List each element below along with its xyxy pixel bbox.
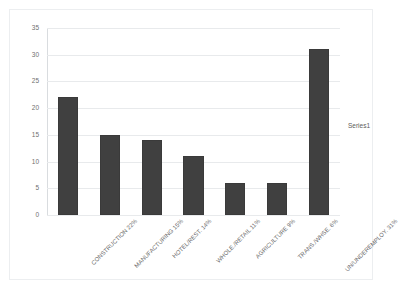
x-axis-tick-labels: CONSTRUCTION 22%MANUFACTURING 15%HOTEL/R… <box>47 218 340 288</box>
bar[interactable] <box>100 135 120 215</box>
legend-entry-series1: Series1 <box>348 122 370 129</box>
x-axis-tick-label: AGRICULTURE 9% <box>255 218 297 260</box>
gridline <box>47 55 340 56</box>
gridline <box>47 108 340 109</box>
y-axis-tick-35: 35 <box>13 25 39 32</box>
bar[interactable] <box>225 183 245 215</box>
x-axis-tick-label: WHOLE./RETAIL 11% <box>215 218 261 264</box>
y-axis-tick-5: 5 <box>13 185 39 192</box>
y-axis-tick-0: 0 <box>13 212 39 219</box>
y-axis-tick-30: 30 <box>13 51 39 58</box>
x-axis-tick-label: UN/UNDEREMPLOY. 31% <box>344 218 399 273</box>
bar[interactable] <box>58 97 78 215</box>
bar[interactable] <box>142 140 162 215</box>
x-axis-tick-label: MANUFACTURING 15% <box>133 218 184 269</box>
plot-area <box>47 28 340 216</box>
y-axis-tick-25: 25 <box>13 78 39 85</box>
legend: Series1 <box>348 122 370 129</box>
bar[interactable] <box>267 183 287 215</box>
gridline <box>47 81 340 82</box>
gridline <box>47 135 340 136</box>
gridline <box>47 215 340 216</box>
x-axis-tick-label: CONSTRUCTION 22% <box>90 218 138 266</box>
x-axis-tick-label: TRANS./WHSE. 6% <box>297 218 339 260</box>
chart-container: 05101520253035 CONSTRUCTION 22%MANUFACTU… <box>9 9 373 280</box>
bar[interactable] <box>183 156 203 215</box>
bar[interactable] <box>309 49 329 215</box>
y-axis-tick-20: 20 <box>13 105 39 112</box>
gridline <box>47 28 340 29</box>
y-axis-tick-10: 10 <box>13 158 39 165</box>
y-axis-tick-15: 15 <box>13 132 39 139</box>
